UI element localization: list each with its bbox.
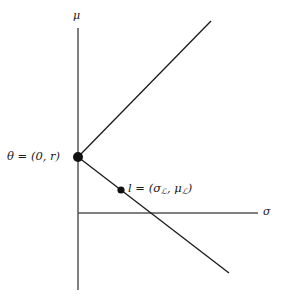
l-point-label: l = (σℒ, μℒ) (128, 183, 192, 196)
theta-point-label: θ = (0, r) (7, 151, 60, 163)
l-point-marker (117, 186, 124, 193)
theta-point-marker (73, 152, 83, 162)
theta-comma: , (43, 149, 50, 163)
theta-symbol: θ (7, 149, 14, 163)
upper-boundary-ray (78, 21, 211, 157)
l-mu-base: μ (174, 181, 181, 195)
mu-axis-label: μ (73, 10, 80, 21)
sigma-axis-label: σ (263, 206, 271, 217)
l-sigma-base: σ (153, 181, 161, 195)
lower-boundary-ray (78, 157, 229, 273)
theta-equals: = (14, 149, 31, 163)
theta-close-paren: ) (56, 149, 61, 163)
theta-first-coord: 0 (35, 149, 42, 163)
l-equals: = (132, 181, 149, 195)
l-close-paren: ) (188, 181, 193, 195)
cone-diagram: μ σ θ = (0, r) l = (σℒ, μℒ) (0, 0, 285, 301)
